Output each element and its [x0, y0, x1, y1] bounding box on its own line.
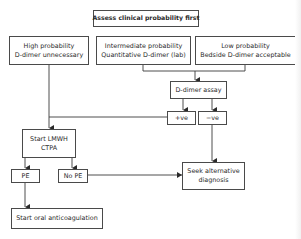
intermediate-probability-box: Intermediate probability Quantitative D-… — [96, 36, 191, 65]
high-probability-label: High probability — [24, 42, 75, 51]
low-probability-detail: Bedside D-dimer acceptable — [200, 51, 291, 60]
d-dimer-assay-label: D-dimer assay — [175, 86, 221, 95]
intermediate-probability-detail: Quantitative D-dimer (lab) — [101, 51, 185, 60]
start-lmwh-label: Start LMWH — [30, 135, 68, 144]
negative-result-label: −ve — [206, 114, 219, 123]
page-edge-shadow — [295, 0, 301, 239]
seek-alternative-diagnosis-box: Seek alternative diagnosis — [182, 162, 245, 190]
assess-clinical-probability-label: Assess clinical probability first — [93, 14, 200, 23]
assess-clinical-probability-box: Assess clinical probability first — [93, 10, 199, 27]
diagnosis-label: diagnosis — [198, 176, 228, 185]
pe-label: PE — [22, 172, 30, 181]
low-probability-label: Low probability — [221, 42, 270, 51]
intermediate-probability-label: Intermediate probability — [105, 42, 182, 51]
no-pe-label: No PE — [64, 172, 83, 181]
no-pe-box: No PE — [58, 169, 88, 183]
low-probability-box: Low probability Bedside D-dimer acceptab… — [195, 36, 296, 65]
start-lmwh-ctpa-box: Start LMWH CTPA — [22, 129, 76, 158]
pe-box: PE — [11, 169, 40, 183]
start-oral-anticoagulation-box: Start oral anticoagulation — [11, 208, 103, 229]
high-probability-box: High probability D-dimer unnecessary — [9, 36, 89, 65]
negative-result-box: −ve — [198, 111, 227, 125]
ctpa-label: CTPA — [41, 144, 57, 153]
start-oral-anticoagulation-label: Start oral anticoagulation — [16, 214, 98, 223]
positive-result-box: +ve — [167, 111, 196, 125]
seek-alternative-label: Seek alternative — [187, 167, 239, 176]
high-probability-detail: D-dimer unnecessary — [15, 51, 83, 60]
d-dimer-assay-box: D-dimer assay — [170, 81, 227, 99]
positive-result-label: +ve — [175, 114, 188, 123]
